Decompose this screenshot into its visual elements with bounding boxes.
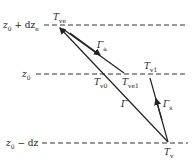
gradient-label-gamma-a: Γa: [97, 41, 107, 52]
point-label-t-ve: Tve: [53, 13, 66, 24]
gradient-label-gamma-s: Γs: [163, 100, 172, 111]
point-label-t-v: Tv: [164, 148, 173, 159]
level-label-bottom: z0 − dz: [6, 139, 38, 150]
gamma-a-line: [63, 29, 124, 73]
gamma-s-arrow: [156, 99, 162, 120]
level-label-mid: z0: [22, 70, 31, 81]
point-label-t-v0: Tv0: [94, 78, 107, 89]
level-label-top: z0 + dze: [3, 21, 39, 32]
gradient-label-gamma: Γ: [121, 100, 127, 109]
point-label-t-v1: Tv1: [144, 62, 157, 73]
point-label-t-ve1: Tve1: [122, 78, 139, 89]
